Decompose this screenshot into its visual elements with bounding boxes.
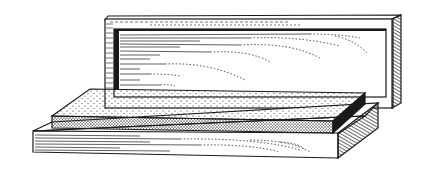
whetstone [52,89,365,133]
illustration [0,0,421,172]
whetstone-box-drawing [0,0,421,172]
